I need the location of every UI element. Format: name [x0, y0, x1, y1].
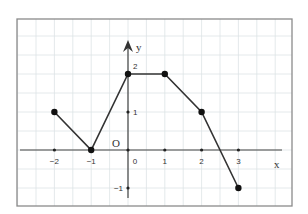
- data-point: [235, 185, 241, 191]
- x-tick-label: −2: [50, 157, 60, 166]
- axes: [20, 40, 308, 198]
- origin-label: O: [112, 137, 120, 149]
- y-tick: [126, 186, 129, 189]
- x-tick: [53, 148, 56, 151]
- y-axis-label: y: [136, 41, 142, 53]
- y-tick-label: 1: [133, 108, 138, 117]
- data-point: [198, 109, 204, 115]
- x-tick-label: 0: [133, 157, 138, 166]
- x-tick: [237, 148, 240, 151]
- grid-lines: [17, 19, 292, 206]
- x-tick-label: −1: [87, 157, 97, 166]
- x-tick-label: 1: [163, 157, 168, 166]
- y-tick-label: 2: [133, 62, 138, 71]
- data-point: [125, 71, 131, 77]
- x-axis-label: x: [274, 158, 280, 170]
- x-tick: [200, 148, 203, 151]
- x-tick-label: 2: [199, 157, 204, 166]
- x-tick: [126, 148, 129, 151]
- y-tick: [126, 110, 129, 113]
- plot-frame: [17, 19, 292, 206]
- function-graph: −2−10123−112 x y O: [0, 0, 308, 214]
- data-point: [51, 109, 57, 115]
- data-point: [88, 147, 94, 153]
- x-tick: [163, 148, 166, 151]
- data-point: [162, 71, 168, 77]
- tick-marks: −2−10123−112: [50, 62, 241, 193]
- x-tick-label: 3: [236, 157, 241, 166]
- y-tick-label: −1: [114, 184, 124, 193]
